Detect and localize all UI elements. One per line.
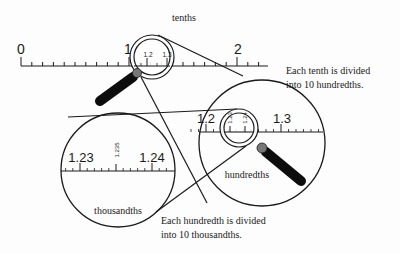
hundredths-label: hundredths bbox=[225, 169, 270, 180]
main-ruler-label-2: 2 bbox=[234, 41, 242, 57]
hundredths-caption-line2: into 10 hundredths. bbox=[286, 79, 364, 90]
tenths-label: tenths bbox=[172, 12, 196, 23]
main-ruler-label-0: 0 bbox=[17, 41, 25, 57]
hundredths-caption-line1: Each tenth is divided bbox=[286, 65, 370, 76]
magnifier-handle-tenths bbox=[100, 69, 142, 102]
thousandths-label-1-24: 1.24 bbox=[139, 150, 164, 165]
thousandths-caption-line1: Each hundredth is divided bbox=[161, 215, 266, 226]
magnified-label-1-3: 1.3 bbox=[162, 51, 171, 58]
thousandths-label: thousandths bbox=[94, 205, 142, 216]
magnifier-tenths bbox=[100, 35, 174, 101]
magnified-label-1-24: 1.24 bbox=[242, 112, 248, 124]
magnified-label-1-23: 1.23 bbox=[227, 112, 233, 124]
hundredths-circle bbox=[191, 80, 325, 206]
hundredths-label-1-3: 1.3 bbox=[273, 111, 291, 126]
thousandths-caption-line2: into 10 thousandths. bbox=[161, 229, 242, 240]
decimal-place-value-diagram: 0 1 2 tenths 1.2 1.3 bbox=[0, 0, 400, 253]
hundredths-label-1-2: 1.2 bbox=[197, 111, 215, 126]
magnified-label-1-2: 1.2 bbox=[143, 51, 152, 58]
thousandths-label-1-23: 1.23 bbox=[68, 150, 93, 165]
diagram-canvas: 0 1 2 tenths 1.2 1.3 bbox=[0, 0, 400, 253]
thousandths-label-1-235: 1.235 bbox=[114, 142, 120, 158]
